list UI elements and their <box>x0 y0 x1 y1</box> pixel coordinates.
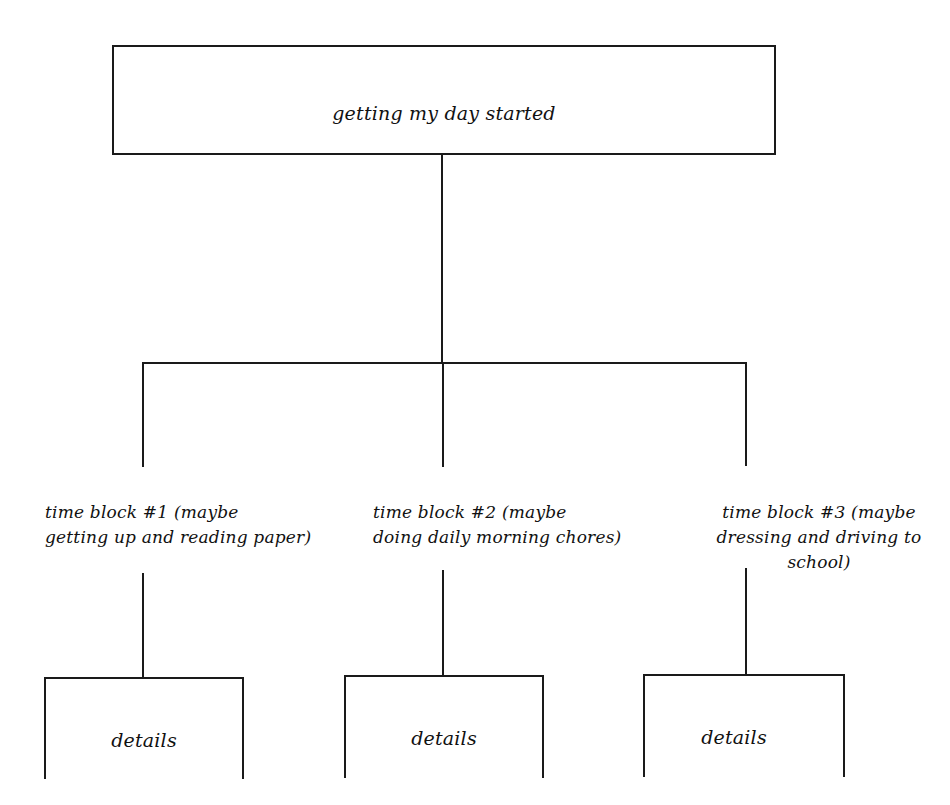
root-label: getting my day started <box>114 102 774 124</box>
detail-box-1: details <box>44 677 244 779</box>
detail-box-3: details <box>643 674 845 777</box>
branch-drop-3-line <box>745 362 747 466</box>
detail-3-label: details <box>625 726 843 748</box>
branch-drop-2-line <box>442 363 444 467</box>
detail-2-label: details <box>346 727 542 749</box>
root-box: getting my day started <box>112 45 776 155</box>
time-block-3-label: time block #3 (maybe dressing and drivin… <box>688 500 950 575</box>
detail-box-2: details <box>344 675 544 778</box>
detail-drop-3-line <box>745 568 747 675</box>
root-connector-line <box>441 155 443 364</box>
detail-drop-2-line <box>442 570 444 676</box>
detail-1-label: details <box>46 729 242 751</box>
time-block-2-label: time block #2 (maybe doing daily morning… <box>373 500 663 550</box>
branch-drop-1-line <box>142 363 144 467</box>
detail-drop-1-line <box>142 573 144 678</box>
time-block-1-label: time block #1 (maybe getting up and read… <box>45 500 345 550</box>
branch-bar-line <box>142 362 747 364</box>
